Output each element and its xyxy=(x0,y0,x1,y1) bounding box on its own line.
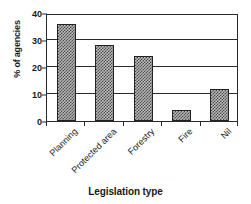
y-axis-tick-labels: 010203040 xyxy=(22,14,42,122)
x-tick-mark xyxy=(237,122,238,126)
x-tick-mark xyxy=(200,122,201,126)
x-tick-mark xyxy=(46,122,47,126)
plot-area xyxy=(46,14,238,122)
bar xyxy=(172,110,191,121)
x-tick-label: Nil xyxy=(219,127,233,141)
x-tick-label: Planning xyxy=(48,127,79,158)
x-tick-label: Forestry xyxy=(127,127,157,157)
x-tick-mark xyxy=(123,122,124,126)
x-tick-mark xyxy=(161,122,162,126)
x-axis-title: Legislation type xyxy=(0,186,251,197)
bar xyxy=(95,45,114,121)
y-axis-title: % of agencies xyxy=(12,0,22,99)
x-tick-mark xyxy=(84,122,85,126)
x-axis-category-labels: PlanningProtected areaForestryFireNil xyxy=(46,127,238,175)
bar-series xyxy=(47,15,237,121)
bar-chart-figure: % of agencies 010203040 PlanningProtecte… xyxy=(0,0,251,204)
x-tick-label: Fire xyxy=(177,127,194,144)
bar xyxy=(134,56,153,121)
bar xyxy=(210,89,229,121)
bar xyxy=(57,24,76,121)
